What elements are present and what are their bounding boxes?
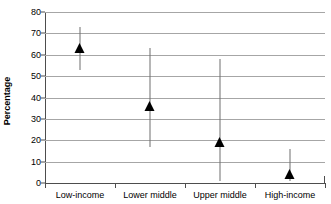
x-axis-tick-mark (325, 183, 326, 188)
y-axis-tick-labels: 01020304050607080 (14, 0, 41, 204)
y-axis-tick-label: 50 (14, 72, 41, 81)
gridline (45, 76, 325, 77)
data-point-marker (215, 137, 225, 147)
y-axis-tick-mark (41, 54, 45, 55)
error-bar-whisker (220, 59, 221, 181)
y-axis-tick-label: 30 (14, 114, 41, 123)
y-axis-tick-label: 0 (14, 179, 41, 188)
data-point-marker (285, 169, 295, 179)
gridline (45, 12, 325, 13)
gridline (45, 162, 325, 163)
y-axis-tick-label: 70 (14, 29, 41, 38)
x-axis-tick-mark (255, 183, 256, 188)
x-axis-tick-mark (45, 183, 46, 188)
x-axis-tick-mark (185, 183, 186, 188)
y-axis-tick-label: 40 (14, 93, 41, 102)
y-axis-tick-mark (41, 76, 45, 77)
y-axis-tick-mark (41, 118, 45, 119)
y-axis-tick-mark (41, 12, 45, 13)
error-bar-whisker (150, 48, 151, 146)
data-point-marker (75, 43, 85, 53)
data-point-marker (145, 101, 155, 111)
x-axis-tick-mark (115, 183, 116, 188)
y-axis-title-label: Percentage (2, 77, 12, 126)
x-axis-category-label: High-income (265, 190, 316, 200)
y-axis-tick-mark (41, 140, 45, 141)
x-axis-category-label: Upper middle (193, 190, 247, 200)
y-axis-tick-label: 10 (14, 157, 41, 166)
y-axis-tick-mark (41, 97, 45, 98)
top-clipped-text (10, 0, 250, 6)
y-axis-title: Percentage (0, 55, 14, 147)
y-axis-tick-label: 60 (14, 50, 41, 59)
x-axis-category-label: Lower middle (123, 190, 177, 200)
y-axis-tick-mark (41, 33, 45, 34)
y-axis-tick-mark (41, 161, 45, 162)
gridline (45, 98, 325, 99)
gridline (45, 140, 325, 141)
chart-container: Percentage 01020304050607080 Low-incomeL… (0, 0, 331, 204)
gridline (45, 55, 325, 56)
y-axis-tick-label: 20 (14, 136, 41, 145)
x-axis-category-label: Low-income (56, 190, 105, 200)
plot-area (45, 12, 325, 183)
gridline (45, 119, 325, 120)
gridline (45, 33, 325, 34)
y-axis-tick-label: 80 (14, 8, 41, 17)
